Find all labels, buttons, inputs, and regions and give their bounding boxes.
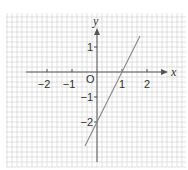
coordinate-graph: −2−1121−1−2 x y O xyxy=(0,0,188,170)
y-axis-label: y xyxy=(92,14,99,28)
origin-label: O xyxy=(86,73,95,85)
y-tick-label: −1 xyxy=(80,91,93,103)
grid-lines xyxy=(6,13,186,167)
x-tick-label: −1 xyxy=(63,78,76,90)
x-axis-label: x xyxy=(170,65,177,79)
y-tick-label: −2 xyxy=(80,116,93,128)
x-tick-label: 1 xyxy=(119,78,125,90)
y-axis-arrow-icon xyxy=(94,28,100,35)
x-tick-label: −2 xyxy=(38,78,51,90)
y-tick-label: 1 xyxy=(87,41,93,53)
x-tick-label: 2 xyxy=(144,78,150,90)
